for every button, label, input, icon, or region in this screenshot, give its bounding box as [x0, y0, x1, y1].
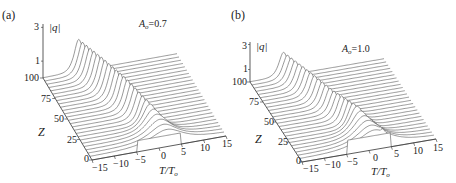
xaxis-tick-10: 10: [200, 143, 210, 153]
xaxis-tick-neg5: −5: [347, 157, 358, 167]
annotation-amplitude-a: Ao=0.7: [139, 19, 167, 31]
zaxis-tick-3: 3: [34, 22, 39, 32]
xaxis-tick-15: 15: [433, 143, 443, 153]
panel-a: (a) 3 1 |q| Ao=0.7 100 75 50 25 0 Z −15 …: [0, 0, 228, 183]
xaxis-tick-neg10: −10: [325, 160, 341, 170]
xaxis-tick-neg5: −5: [135, 155, 146, 165]
annotation-amplitude-b: Ao=1.0: [342, 44, 370, 56]
panel-label-b: (b): [231, 9, 245, 21]
xaxis-tick-neg15: −15: [92, 163, 108, 173]
xaxis-tick-neg15: −15: [303, 164, 319, 174]
yaxis-tick-25: 25: [278, 137, 288, 147]
zaxis-label: |q|: [256, 41, 268, 52]
yaxis-tick-50: 50: [54, 114, 64, 124]
xaxis-tick-neg10: −10: [113, 159, 129, 169]
zaxis-tick-1: 1: [243, 64, 248, 74]
zaxis-label: |q|: [49, 22, 61, 33]
xaxis-tick-5: 5: [181, 147, 186, 157]
yaxis-tick-75: 75: [41, 94, 51, 104]
yaxis-label: Z: [255, 133, 262, 145]
panel-label-a: (a): [2, 9, 15, 21]
xaxis-label: T/To: [371, 166, 390, 179]
zaxis-tick-3: 3: [242, 41, 247, 51]
yaxis-label: Z: [38, 126, 45, 138]
yaxis-tick-0: 0: [84, 154, 89, 164]
panel-b: (b) 3 1 |q| Ao=1.0 100 75 50 25 0 Z −15 …: [228, 0, 456, 183]
xaxis-tick-5: 5: [394, 149, 399, 159]
yaxis-tick-75: 75: [249, 97, 259, 107]
xaxis-tick-10: 10: [413, 146, 423, 156]
yaxis-tick-50: 50: [264, 117, 274, 127]
xaxis-tick-0: 0: [161, 151, 166, 161]
yaxis-tick-0: 0: [296, 156, 301, 166]
zaxis-tick-1: 1: [35, 56, 40, 66]
xaxis-tick-0: 0: [373, 153, 378, 163]
yaxis-tick-25: 25: [67, 135, 77, 145]
yaxis-tick-100: 100: [232, 77, 247, 87]
yaxis-tick-100: 100: [24, 73, 39, 83]
xaxis-label: T/To: [159, 165, 178, 178]
